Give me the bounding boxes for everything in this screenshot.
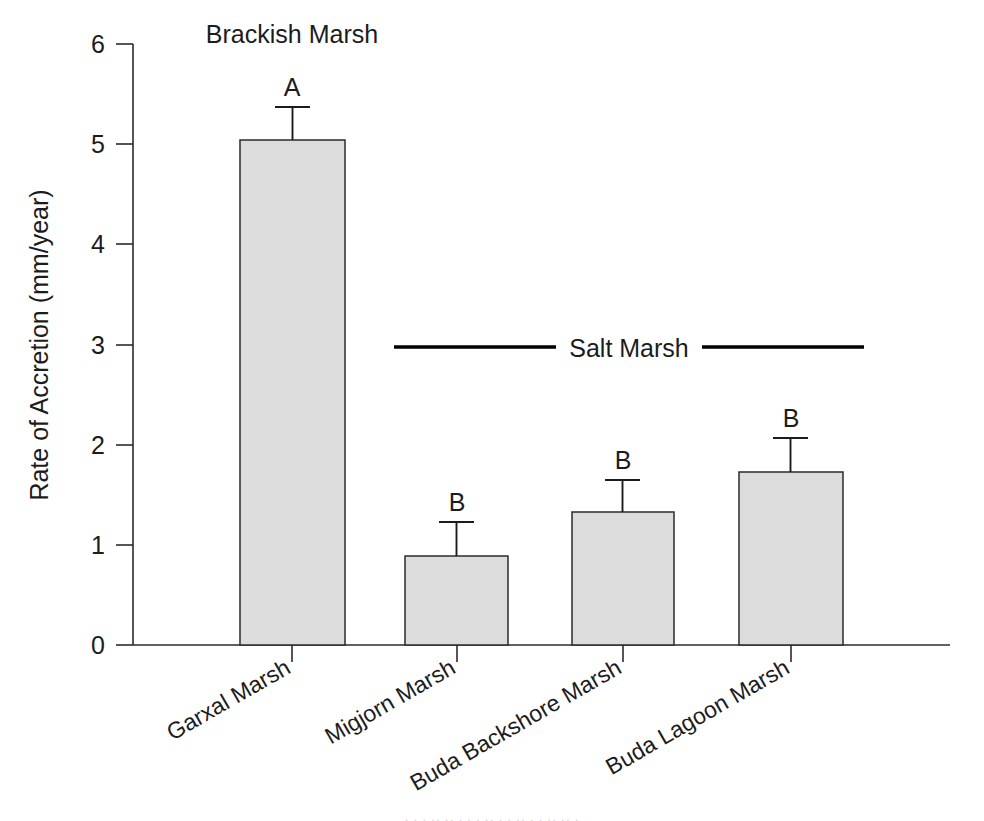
brackish-marsh-group-label: Brackish Marsh [206, 20, 378, 48]
y-tick-label-3: 3 [91, 331, 105, 359]
bar-garxal-marsh[interactable] [240, 140, 345, 645]
sig-label-garxal-marsh: A [284, 73, 301, 101]
bar-buda-lagoon-marsh[interactable] [739, 472, 843, 645]
bar-buda-backshore-marsh[interactable] [572, 512, 674, 645]
y-tick-label-0: 0 [91, 631, 105, 659]
y-tick-label-6: 6 [91, 30, 105, 58]
y-tick-label-2: 2 [91, 431, 105, 459]
partial-caption-text: · · · ·· ·· · · · ·· · · ·· · · ·· ·· · [0, 809, 984, 821]
sig-label-buda-backshore-marsh: B [615, 446, 632, 474]
x-category-label-buda-lagoon-marsh: Buda Lagoon Marsh [601, 654, 793, 780]
x-category-label-garxal-marsh: Garxal Marsh [162, 654, 295, 746]
bar-chart: 6 5 4 3 2 1 0 Rate of Accretion (mm/year… [0, 0, 984, 821]
salt-marsh-group-label: Salt Marsh [569, 334, 688, 362]
y-tick-label-1: 1 [91, 531, 105, 559]
y-tick-label-4: 4 [91, 230, 105, 258]
y-axis-title: Rate of Accretion (mm/year) [25, 189, 53, 500]
bar-migjorn-marsh[interactable] [405, 556, 508, 645]
figure-container: 6 5 4 3 2 1 0 Rate of Accretion (mm/year… [0, 0, 984, 821]
y-tick-label-5: 5 [91, 130, 105, 158]
sig-label-buda-lagoon-marsh: B [783, 404, 800, 432]
x-category-label-migjorn-marsh: Migjorn Marsh [320, 654, 459, 749]
sig-label-migjorn-marsh: B [449, 488, 466, 516]
